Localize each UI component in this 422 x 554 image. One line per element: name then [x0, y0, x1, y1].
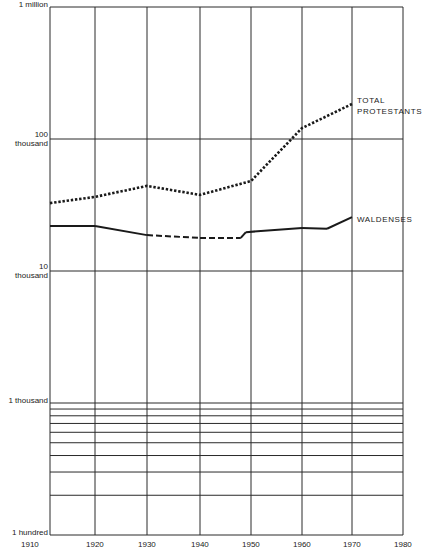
series-label-line: PROTESTANTS: [357, 106, 422, 117]
x-tick-label: 1940: [191, 540, 209, 549]
y-tick-unit: thousand: [0, 271, 48, 280]
x-tick-label: 1960: [293, 540, 311, 549]
y-tick-unit: thousand: [0, 139, 48, 148]
waldenses-line-segment: [246, 228, 302, 232]
y-tick-label: 1 million: [0, 0, 48, 9]
grid: [50, 7, 403, 535]
waldenses-line-segment: [147, 235, 200, 238]
x-tick-label: 1980: [394, 540, 412, 549]
x-tick-label: 1950: [242, 540, 260, 549]
waldenses-label: WALDENSES: [357, 214, 412, 225]
series-label-line: WALDENSES: [357, 214, 412, 225]
y-tick-label: 10thousand: [0, 262, 48, 280]
y-tick-label: 1 thousand: [0, 396, 48, 405]
waldenses-line-segment: [302, 228, 327, 229]
x-tick-label: 1930: [138, 540, 156, 549]
x-tick-label: 1970: [343, 540, 361, 549]
waldenses-line-segment: [95, 226, 147, 235]
y-tick-value: 10: [0, 262, 48, 271]
y-tick-label: 1 hundred: [0, 528, 48, 537]
total-protestants-label: TOTALPROTESTANTS: [357, 95, 422, 117]
y-tick-label: 100thousand: [0, 130, 48, 148]
x-tick-label: 1920: [86, 540, 104, 549]
x-tick-label: 1910: [21, 540, 39, 549]
waldenses-line-segment: [241, 232, 246, 238]
waldenses-line-segment: [327, 217, 352, 229]
series-label-line: TOTAL: [357, 95, 422, 106]
y-tick-value: 100: [0, 130, 48, 139]
